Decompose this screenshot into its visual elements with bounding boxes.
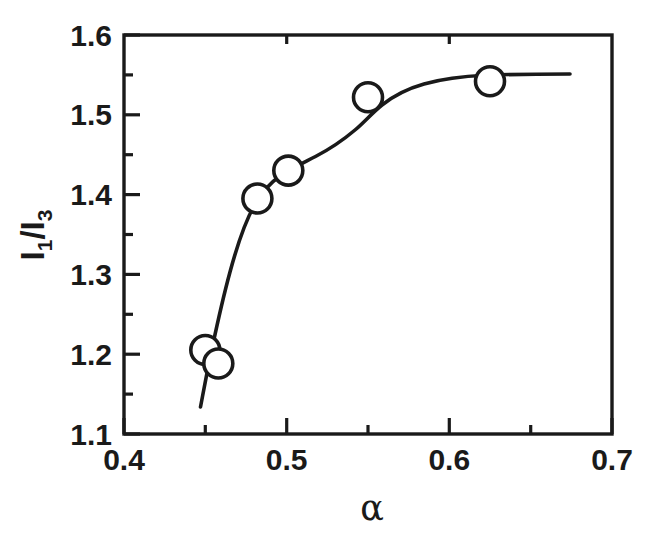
x-tick-label: 0.5	[266, 443, 308, 476]
x-tick-label: 0.7	[591, 443, 633, 476]
y-axis-title-main2: I	[14, 221, 51, 230]
y-axis-title-sub2: 3	[33, 210, 56, 222]
x-tick-labels: 0.4 0.5 0.6 0.7	[103, 443, 633, 476]
y-tick-label: 1.4	[70, 178, 112, 211]
chart-figure: 0.4 0.5 0.6 0.7 1.1 1.2 1.3 1.4 1.5 1.6 …	[0, 0, 650, 533]
y-tick-label: 1.2	[70, 338, 112, 371]
data-point-marker	[476, 67, 505, 96]
x-axis-title-group: α	[360, 488, 384, 528]
y-axis-title-main1: I	[14, 251, 51, 260]
y-tick-label: 1.6	[70, 19, 112, 52]
y-tick-label: 1.1	[70, 418, 112, 451]
y-tick-labels: 1.1 1.2 1.3 1.4 1.5 1.6	[70, 19, 112, 451]
x-axis-title: α	[360, 488, 384, 528]
y-axis-title-slash: /	[14, 230, 51, 239]
data-point-marker	[274, 156, 303, 185]
data-point-marker	[243, 184, 272, 213]
data-point-marker	[204, 349, 233, 378]
y-tick-label: 1.3	[70, 258, 112, 291]
x-tick-label: 0.6	[428, 443, 470, 476]
figure-page: 0.4 0.5 0.6 0.7 1.1 1.2 1.3 1.4 1.5 1.6 …	[0, 0, 650, 533]
y-axis-title-sub1: 1	[33, 239, 56, 251]
y-tick-label: 1.5	[70, 98, 112, 131]
y-axis-title-group: I1/I3	[14, 210, 56, 261]
y-axis-title: I1/I3	[14, 210, 56, 261]
data-point-marker	[354, 83, 383, 112]
